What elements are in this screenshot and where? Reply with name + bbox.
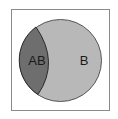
venn-diagram: AB B [0,0,118,119]
region-label-b: B [80,53,89,68]
region-label-ab: AB [28,53,45,68]
